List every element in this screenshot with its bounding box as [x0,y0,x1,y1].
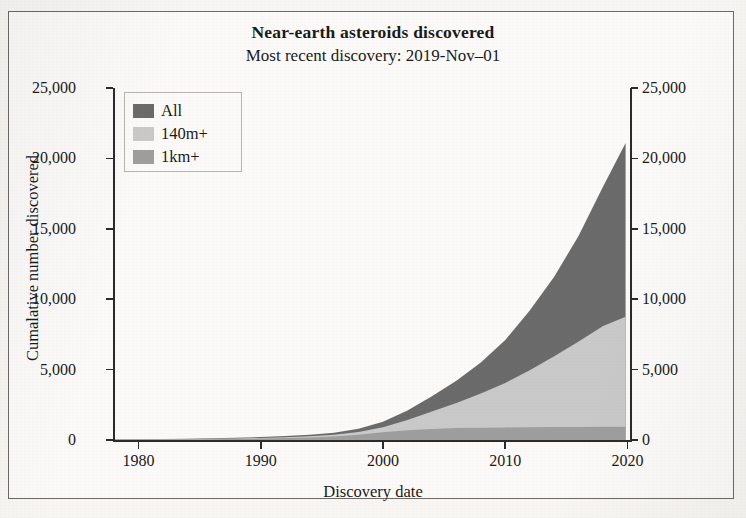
y-tick-label-left-25000: 25,000 [32,80,76,96]
scanned-page: Near-earth asteroids discovered Most rec… [0,0,746,518]
x-axis-line [113,440,632,442]
legend-item-1km[interactable]: 1km+ [133,145,241,168]
y-tick-right-25000 [631,87,638,89]
y-axis-title: Cumalative number discovered [23,118,43,398]
x-tick-label-1980: 1980 [98,452,178,470]
legend-swatch-all [133,104,154,118]
y-tick-left-25000 [106,87,113,89]
legend-label-1km: 1km+ [161,148,200,165]
plot-container: 005,0005,00010,00010,00015,00015,00020,0… [0,0,746,518]
y-tick-left-10000 [106,298,113,300]
chart-legend: All 140m+ 1km+ [124,92,242,172]
y-tick-label-right-0: 0 [642,432,650,448]
y-tick-right-5000 [631,369,638,371]
legend-item-140m[interactable]: 140m+ [133,122,241,145]
x-tick-1990 [260,441,262,449]
legend-swatch-1km [133,150,154,164]
y-axis-right-line [630,88,632,441]
x-axis-title: Discovery date [0,482,746,502]
y-tick-right-0 [631,439,638,441]
x-tick-2010 [504,441,506,449]
y-tick-label-right-10000: 10,000 [642,291,686,307]
legend-label-140m: 140m+ [161,125,208,142]
x-tick-label-2020: 2020 [588,452,668,470]
legend-item-all[interactable]: All [133,99,241,122]
x-tick-label-2010: 2010 [465,452,545,470]
y-tick-right-15000 [631,228,638,230]
y-tick-right-10000 [631,298,638,300]
x-tick-label-2000: 2000 [343,452,423,470]
x-tick-1980 [138,441,140,449]
y-tick-left-15000 [106,228,113,230]
y-tick-label-right-25000: 25,000 [642,80,686,96]
y-tick-right-20000 [631,158,638,160]
y-tick-label-right-15000: 15,000 [642,221,686,237]
y-axis-left-line [113,88,115,441]
legend-swatch-140m [133,127,154,141]
y-tick-label-right-20000: 20,000 [642,150,686,166]
y-tick-left-20000 [106,158,113,160]
y-tick-label-left-0: 0 [68,432,76,448]
y-tick-label-right-5000: 5,000 [642,362,678,378]
x-tick-label-1990: 1990 [221,452,301,470]
x-tick-2000 [382,441,384,449]
x-tick-2020 [627,441,629,449]
legend-label-all: All [161,102,182,119]
y-tick-label-left-5000: 5,000 [40,362,76,378]
y-tick-left-0 [106,439,113,441]
y-tick-left-5000 [106,369,113,371]
